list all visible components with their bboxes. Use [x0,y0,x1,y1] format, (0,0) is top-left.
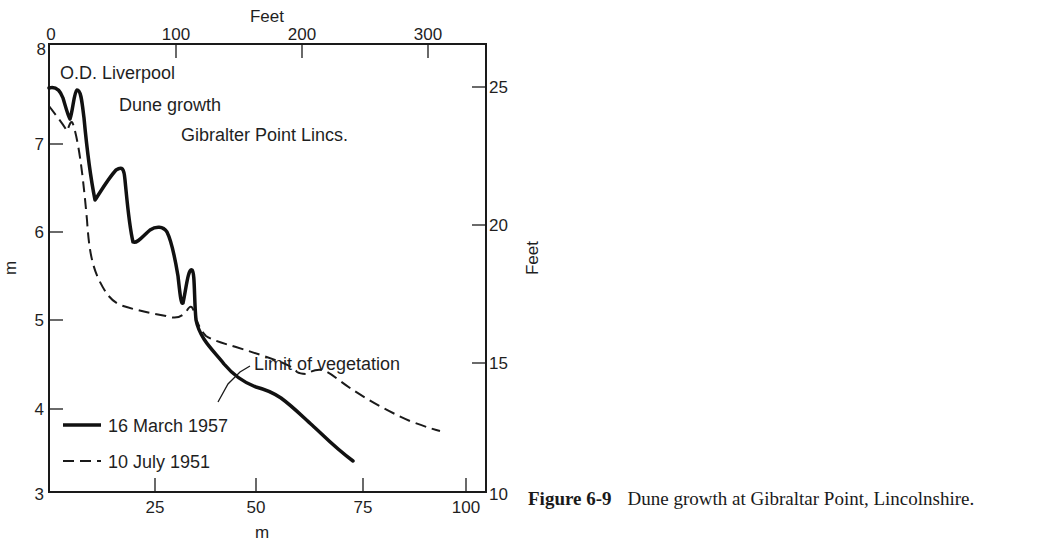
right-tick-20: 20 [489,216,508,235]
dune-growth-chart: Feet 0 100 200 300 8 7 6 5 4 3 m 25 20 1… [0,0,1061,541]
left-tick-3: 3 [35,485,44,504]
left-tick-4: 4 [35,400,44,419]
bottom-tick-100: 100 [452,498,480,517]
figure-caption: Figure 6-9Dune growth at Gibraltar Point… [528,488,974,510]
top-tick-100: 100 [162,25,190,44]
top-axis-labels: 0 100 200 300 [46,25,442,44]
top-axis-ticks [176,44,428,58]
top-tick-300: 300 [414,25,442,44]
left-tick-6: 6 [35,223,44,242]
chart-title: Dune growth [119,95,221,115]
bottom-tick-25: 25 [146,498,165,517]
annotation-label: Limit of vegetation [254,354,400,374]
right-tick-25: 25 [489,78,508,97]
left-tick-8: 8 [37,40,46,59]
chart-subtitle: Gibralter Point Lincs. [181,125,348,145]
left-axis-labels: 8 7 6 5 4 3 [35,40,46,504]
figure-number: Figure 6-9 [528,488,612,509]
bottom-axis-ticks [155,478,466,492]
legend-label-1957: 16 March 1957 [108,416,228,436]
limit-of-vegetation-annotation: Limit of vegetation [218,354,400,402]
left-tick-7: 7 [35,135,44,154]
bottom-axis-title: m [255,523,269,541]
bottom-tick-50: 50 [247,498,266,517]
right-axis-labels: 25 20 15 10 [489,78,508,504]
legend-label-1951: 10 July 1951 [108,452,210,472]
left-axis-title: m [1,261,20,275]
right-tick-10: 10 [489,485,508,504]
legend: 16 March 1957 10 July 1951 [63,416,228,472]
bottom-axis-labels: 25 50 75 100 [146,498,481,517]
left-tick-5: 5 [35,311,44,330]
top-tick-200: 200 [288,25,316,44]
right-axis-ticks [472,87,486,363]
datum-label: O.D. Liverpool [60,63,175,83]
right-axis-title: Feet [523,241,542,275]
bottom-tick-75: 75 [354,498,373,517]
left-axis-ticks [49,144,63,409]
figure-caption-text: Dune growth at Gibraltar Point, Lincolns… [628,488,975,509]
right-tick-15: 15 [489,354,508,373]
top-tick-0: 0 [46,25,55,44]
top-axis-title: Feet [250,7,284,26]
